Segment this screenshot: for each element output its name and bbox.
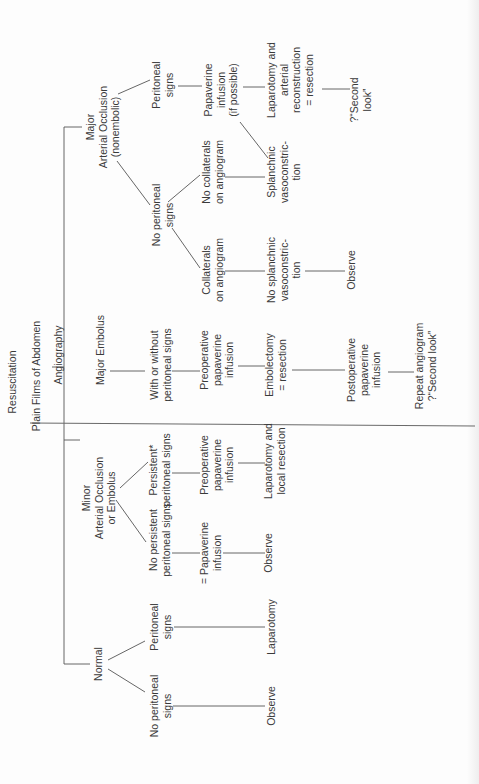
node-line: = Papaverine [198, 522, 210, 584]
node-embolus: Major Embolus [94, 315, 106, 385]
node-minor-observe: Observe [262, 533, 274, 573]
node-line: Observe [265, 686, 277, 726]
node-line: peritoneal signs [160, 433, 172, 507]
book-page: ResuscitationPlain Films of AbdomenAngio… [0, 0, 479, 784]
no-peritoneal-to-collaterals-line [172, 228, 200, 268]
node-plain-films: Plain Films of Abdomen [30, 321, 42, 431]
node-line: Arterial Occlusion [93, 457, 105, 539]
node-collaterals: Collateralson angiogram [200, 238, 225, 302]
node-line: Postoperative [345, 338, 357, 402]
node-line: ?“Second [348, 77, 360, 122]
node-line: Peritoneal [150, 61, 162, 108]
node-minor-papaverine: = Papaverineinfusion [198, 522, 223, 584]
minor-to-persistent-line [120, 462, 148, 488]
node-line: infusion [223, 447, 235, 483]
node-minor-persistent: Persistent*peritoneal signs [147, 433, 172, 507]
normal-to-peritoneal-line [108, 641, 145, 660]
node-major: MajorArterial Occlusion(nonembolic) [84, 86, 121, 168]
node-normal-observe: Observe [265, 686, 277, 726]
node-line: local resection [275, 427, 287, 494]
node-no-splanchnic: No splanchnicvasoconstric-tion [265, 237, 302, 303]
node-line: signs [163, 203, 175, 228]
no-peritoneal-to-no-collaterals-line [168, 175, 200, 202]
node-line: peritoneal signs [160, 503, 172, 577]
node-line: Arterial Occlusion [97, 86, 109, 168]
node-major-peritoneal: Peritonealsigns [150, 61, 175, 108]
connector-lines [30, 80, 475, 706]
node-line: tion [290, 261, 302, 278]
node-normal-laparotomy: Laparotomy [265, 599, 277, 655]
node-minor: MinorArterial Occlusionor Embolus [80, 457, 117, 539]
node-line: Repeat angiogram [413, 323, 425, 410]
node-line: papaverine [358, 344, 370, 396]
node-collaterals-observe: Observe [345, 250, 357, 290]
node-line: Major [84, 113, 96, 140]
section-divider-line [30, 423, 475, 426]
node-line: papaverine [211, 439, 223, 491]
node-line: Preoperative [198, 435, 210, 495]
node-line: No collaterals [200, 140, 212, 204]
flowchart: ResuscitationPlain Films of AbdomenAngio… [0, 0, 479, 784]
node-line: No peritoneal [150, 184, 162, 246]
minor-to-no-persistent-line [116, 500, 146, 542]
node-line: Major Embolus [94, 315, 106, 385]
node-line: arterial [278, 64, 290, 96]
node-line: (if possible) [227, 63, 239, 117]
node-line: vasoconstric- [278, 141, 290, 203]
node-line: Laparotomy and [262, 423, 274, 499]
node-line: Papaverine [202, 63, 214, 116]
node-minor-no-persistent: No persistentperitoneal signs [147, 503, 172, 577]
node-line: Observe [262, 533, 274, 573]
node-major-second-look: ?“Secondlook” [348, 77, 373, 122]
node-no-collaterals: No collateralson angiogram [200, 140, 225, 204]
node-line: infusion [215, 72, 227, 108]
node-line: on angiogram [213, 238, 225, 302]
node-line: papaverine [211, 334, 223, 386]
node-minor-laparotomy: Laparotomy andlocal resection [262, 423, 287, 499]
node-line: on angiogram [213, 140, 225, 204]
node-line: signs [161, 694, 173, 719]
node-line: Preoperative [198, 330, 210, 390]
node-line: tion [290, 163, 302, 180]
papaverine-to-splanchnic-line [240, 122, 268, 158]
node-line: Minor [80, 484, 92, 511]
node-minor-preop-papaverine: Preoperativepapaverineinfusion [198, 435, 235, 495]
node-line: peritoneal signs [161, 328, 173, 402]
node-line: infusion [223, 342, 235, 378]
node-embolus-postop: Postoperativepapaverineinfusion [345, 338, 382, 402]
node-line: vasoconstric- [278, 239, 290, 301]
node-normal-peritoneal: Peritonealsigns [148, 603, 173, 650]
node-major-no-peritoneal: No peritonealsigns [150, 184, 175, 246]
node-line: Resuscitation [6, 350, 18, 413]
normal-to-no-peritoneal-line [108, 669, 145, 692]
node-embolus-repeat: Repeat angiogram?“Second look” [413, 323, 438, 410]
node-line: Laparotomy and [265, 42, 277, 118]
node-line: = resection [276, 339, 288, 391]
node-line: signs [161, 615, 173, 640]
node-line: Splanchnic [265, 146, 277, 197]
node-line: (nonembolic) [109, 97, 121, 158]
node-embolus-embolectomy: Embolectomy= resection [263, 332, 288, 396]
node-embolus-preop: Preoperativepapaverineinfusion [198, 330, 235, 390]
node-line: or Embolus [105, 471, 117, 524]
node-line: = resection [303, 54, 315, 106]
node-resuscitation: Resuscitation [6, 350, 18, 413]
node-line: infusion [211, 535, 223, 571]
node-major-laparotomy: Laparotomy andarterialreconstruction= re… [265, 42, 315, 118]
node-line: No peritoneal [148, 675, 160, 737]
node-line: Laparotomy [265, 599, 277, 655]
node-major-papaverine: Papaverineinfusion(if possible) [202, 63, 239, 117]
major-to-no-peritoneal-line [117, 161, 150, 205]
node-line: look” [361, 88, 373, 111]
node-line: Normal [92, 647, 104, 681]
node-line: reconstruction [290, 47, 302, 113]
node-line: infusion [370, 352, 382, 388]
node-splanchnic: Splanchnicvasoconstric-tion [265, 141, 302, 203]
node-line: Angiography [52, 325, 64, 385]
node-line: Embolectomy [263, 332, 275, 396]
node-line: ?“Second look” [426, 330, 438, 401]
node-line: Observe [345, 250, 357, 290]
node-line: No persistent [147, 509, 159, 571]
node-line: Plain Films of Abdomen [30, 321, 42, 431]
node-normal: Normal [92, 647, 104, 681]
